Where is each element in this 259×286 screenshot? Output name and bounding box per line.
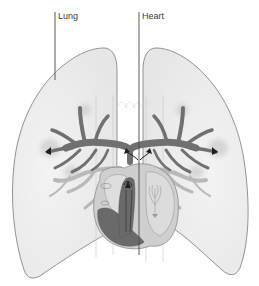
diagram-illustration xyxy=(0,0,259,286)
heart-label: Heart xyxy=(142,11,164,21)
lung-heart-diagram: Lung Heart xyxy=(0,0,259,286)
heart xyxy=(94,164,179,249)
lung-label: Lung xyxy=(58,11,78,21)
